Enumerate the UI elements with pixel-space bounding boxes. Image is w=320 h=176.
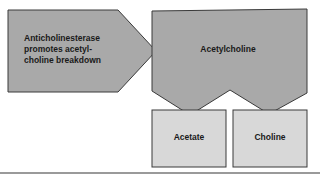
acetylcholine-shape <box>152 9 307 115</box>
anticholinesterase-label: Anticholinesterase promotes acetyl- chol… <box>24 33 102 65</box>
diagram-canvas: Anticholinesterase promotes acetyl- chol… <box>0 0 320 176</box>
acetylcholine-label: Acetylcholine <box>200 44 256 54</box>
acetate-label: Acetate <box>174 132 205 142</box>
choline-label: Choline <box>254 132 285 142</box>
